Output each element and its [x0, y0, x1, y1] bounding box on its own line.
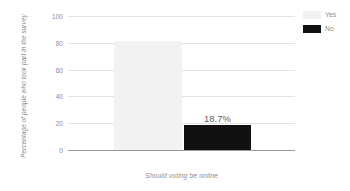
- x-axis-line: 0: [68, 150, 295, 151]
- y-axis-title: Percentage of people who took part in th…: [19, 6, 47, 166]
- legend-label-yes: Yes: [325, 11, 336, 18]
- x-axis-title: Should voting be online: [68, 172, 295, 179]
- legend: Yes No: [303, 9, 349, 37]
- y-tick-label-100: 100: [52, 13, 63, 20]
- legend-label-no: No: [325, 25, 334, 32]
- bar-value-label-no: 18.7%: [184, 113, 251, 124]
- bar-chart: Percentage of people who took part in th…: [0, 0, 350, 191]
- y-tick-label-80: 80: [56, 39, 63, 46]
- y-tick-label-40: 40: [56, 93, 63, 100]
- legend-item-yes[interactable]: Yes: [303, 9, 349, 20]
- plot-area: 100 80 60 40 20 0 81.3% 18.7%: [68, 16, 295, 150]
- y-tick-label-0: 0: [59, 147, 63, 154]
- legend-item-no[interactable]: No: [303, 23, 349, 34]
- y-tick-label-20: 20: [56, 120, 63, 127]
- legend-swatch-no-icon: [303, 25, 321, 33]
- y-tick-label-60: 60: [56, 66, 63, 73]
- bar-yes[interactable]: [114, 41, 182, 150]
- bar-no[interactable]: [184, 125, 251, 150]
- gridline-100: 100: [68, 16, 295, 17]
- legend-swatch-yes-icon: [303, 11, 321, 19]
